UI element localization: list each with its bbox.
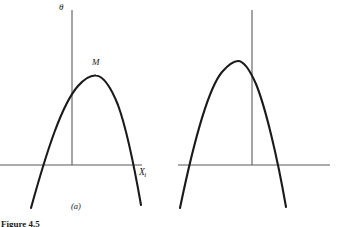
chart-panel-b: θ M M′ Xi (b): [167, 0, 337, 227]
panel-b-plot: [167, 0, 337, 227]
y-axis-label: θ: [59, 3, 63, 12]
parabola-curve: [180, 61, 286, 208]
parabola-curve: [31, 75, 141, 208]
panel-a-plot: [0, 0, 170, 227]
figure-caption: Figure 4.5: [1, 219, 40, 227]
panel-caption-a: (a): [71, 202, 81, 211]
x-axis-label-subscript: i: [144, 171, 146, 179]
point-label-m: M: [92, 58, 100, 67]
figure-container: θ M Xi (a) θ M M′ Xi (b) Figure 4.5: [0, 0, 337, 227]
chart-panel-a: θ M Xi (a): [0, 0, 170, 227]
x-axis-label: Xi: [139, 168, 146, 179]
